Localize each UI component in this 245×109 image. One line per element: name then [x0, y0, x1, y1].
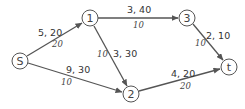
edge-label-s-1: 5, 20 — [38, 27, 62, 38]
node-label-s: S — [17, 55, 24, 68]
edge-label-1-3: 3, 40 — [127, 4, 151, 15]
node-label-3: 3 — [184, 12, 191, 25]
edge-label-2-t: 4, 20 — [171, 68, 195, 79]
node-2: 2 — [123, 86, 139, 102]
edge-label-1-2: 3, 30 — [113, 48, 137, 59]
edge-labels: 5, 20 20 9, 30 10 3, 40 10 3, 30 10 2, 1… — [38, 4, 230, 91]
edge-label-s-2: 9, 30 — [66, 64, 90, 75]
node-label-1: 1 — [87, 12, 94, 25]
node-1: 1 — [82, 10, 98, 26]
flow-label-s-2: 10 — [61, 77, 72, 87]
node-s: S — [12, 53, 28, 69]
edge-label-3-t: 2, 10 — [206, 30, 230, 41]
node-3: 3 — [179, 10, 195, 26]
flow-label-1-2: 10 — [97, 49, 108, 59]
flow-label-3-t: 10 — [195, 38, 206, 48]
flow-network-diagram: 5, 20 20 9, 30 10 3, 40 10 3, 30 10 2, 1… — [0, 0, 245, 109]
node-t: t — [221, 59, 237, 75]
node-label-t: t — [227, 61, 232, 74]
flow-label-1-3: 10 — [133, 20, 144, 30]
node-label-2: 2 — [128, 88, 135, 101]
flow-label-s-1: 20 — [51, 39, 63, 49]
flow-label-2-t: 20 — [179, 81, 191, 91]
